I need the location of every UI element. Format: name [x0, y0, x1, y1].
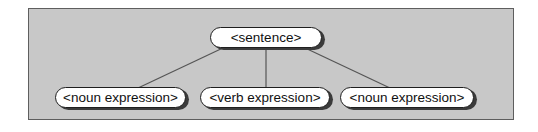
edge-sentence-to-noun-right	[303, 47, 390, 88]
edge-sentence-to-noun-left	[138, 47, 225, 88]
node-sentence: <sentence>	[210, 27, 322, 48]
diagram-frame: <sentence> <noun expression> <verb expre…	[28, 8, 514, 120]
node-noun-expression-left-label: <noun expression>	[63, 91, 178, 105]
node-verb-expression-label: <verb expression>	[209, 91, 320, 105]
node-noun-expression-right: <noun expression>	[340, 87, 474, 108]
node-verb-expression: <verb expression>	[200, 87, 330, 108]
node-noun-expression-left: <noun expression>	[55, 87, 186, 108]
node-sentence-label: <sentence>	[231, 31, 302, 45]
node-noun-expression-right-label: <noun expression>	[350, 91, 465, 105]
